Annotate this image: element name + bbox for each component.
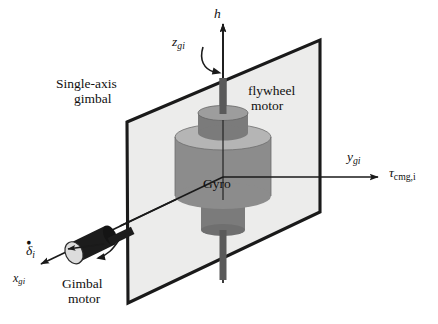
label-flywheel-motor-line2: motor	[251, 98, 295, 113]
label-h: h	[214, 6, 221, 21]
label-gyro: Gyro	[203, 176, 231, 191]
label-tau-subscript: cmg,i	[394, 171, 416, 182]
label-z-gi: zgi	[172, 34, 185, 51]
gimbal-rate-arc-arrowhead	[96, 253, 105, 260]
label-single-axis-gimbal-line1: Single-axis	[56, 76, 117, 91]
label-single-axis-gimbal-line2: gimbal	[74, 91, 117, 106]
label-tau-cmg-i: τcmg,i	[389, 165, 416, 182]
label-z-gi-subscript: gi	[177, 40, 185, 51]
label-flywheel-motor: flywheel motor	[248, 83, 295, 113]
flywheel-motor-shaft	[220, 78, 227, 114]
label-delta-overdot: ●	[26, 239, 31, 247]
label-y-gi: ygi	[347, 149, 361, 166]
label-x-gi: xgi	[13, 272, 25, 287]
label-delta-dot-i: ● δ i	[26, 243, 35, 260]
label-gimbal-motor-line2: motor	[68, 291, 103, 306]
z-rotation-arrowhead	[212, 67, 222, 74]
label-delta-subscript: i	[32, 249, 35, 260]
label-gimbal-motor-line1: Gimbal	[62, 276, 103, 291]
label-single-axis-gimbal: Single-axis gimbal	[56, 76, 117, 106]
cmg-diagram-figure: h zgi Single-axis gimbal flywheel motor …	[0, 0, 438, 324]
z-rotation-arc	[202, 47, 214, 72]
label-delta-dot-wrap: ● δ	[26, 243, 32, 258]
label-y-gi-subscript: gi	[353, 155, 361, 166]
flywheel-lower-shaft	[220, 230, 227, 280]
label-gimbal-motor: Gimbal motor	[62, 276, 103, 306]
label-flywheel-motor-line1: flywheel	[248, 83, 295, 98]
label-x-gi-subscript: gi	[18, 276, 25, 286]
